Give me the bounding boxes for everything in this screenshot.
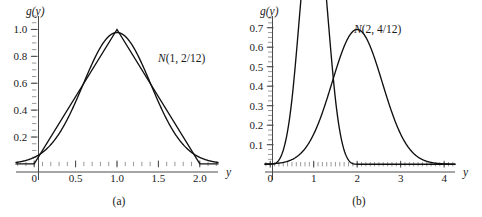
xtick-label: 3: [398, 172, 404, 184]
ytick-label: 1.0: [13, 23, 27, 35]
panel-b-curve-normal: [265, 29, 455, 164]
panel-a-ytick-labels: 0.20.40.60.81.0: [13, 23, 27, 143]
xtick-label: 0: [267, 172, 273, 184]
panel-a-annotation-normal: N(1, 2/12): [157, 52, 205, 65]
panel-a-xtick-labels: 00.51.01.52.0: [31, 172, 207, 184]
ytick-label: 0.4: [13, 104, 27, 116]
panel-b-minor-ticks: [266, 18, 453, 166]
xtick-label: 0: [31, 172, 37, 184]
panel-b-xtick-labels: 01234: [267, 172, 447, 184]
panel-b-annotation-params: (2, 4/12): [362, 23, 402, 36]
xtick-label: 2.0: [193, 172, 207, 184]
panel-b-ytick-labels: 0.10.20.30.40.50.60.7: [249, 22, 263, 151]
panel-b-annotation-normal: N(2, 4/12): [353, 23, 401, 36]
ytick-label: 0.4: [249, 80, 263, 92]
panel-b-major-ticks: [267, 28, 444, 168]
xtick-label: 1.0: [110, 172, 124, 184]
ytick-label: 0.2: [13, 131, 27, 143]
panel-a-annotation-params: (1, 2/12): [166, 52, 206, 65]
ytick-label: 0.8: [13, 50, 27, 62]
panel-a-x-axis-label: y: [225, 166, 232, 179]
ytick-label: 0.1: [249, 139, 263, 151]
xtick-label: 0.5: [69, 172, 83, 184]
panel-a-plot: 0.20.40.60.81.0 00.51.01.52.0 g(y) y N(1…: [0, 0, 241, 217]
ytick-label: 0.3: [249, 100, 263, 112]
ytick-label: 0.6: [249, 41, 263, 53]
panel-b-x-axis-label: y: [462, 166, 469, 179]
figure-root: 0.20.40.60.81.0 00.51.01.52.0 g(y) y N(1…: [0, 0, 482, 217]
ytick-label: 0.6: [13, 77, 27, 89]
chart-panel-a: 0.20.40.60.81.0 00.51.01.52.0 g(y) y N(1…: [0, 0, 241, 217]
panel-b-caption: (b): [352, 195, 366, 208]
panel-a-y-axis-label: g(y): [26, 5, 45, 18]
xtick-label: 2: [354, 172, 360, 184]
xtick-label: 1: [311, 172, 317, 184]
chart-panel-b: 0.10.20.30.40.50.60.7 01234 g(y) y N(2, …: [241, 0, 482, 217]
ytick-label: 0.7: [249, 22, 263, 34]
panel-b-y-axis-label: g(y): [260, 5, 279, 18]
panel-b-plot: 0.10.20.30.40.50.60.7 01234 g(y) y N(2, …: [241, 0, 482, 217]
ytick-label: 0.2: [249, 119, 263, 131]
panel-a-major-ticks: [31, 29, 200, 167]
ytick-label: 0.5: [249, 61, 263, 73]
panel-a-caption: (a): [113, 195, 126, 208]
xtick-label: 4: [441, 172, 447, 184]
panel-a-curve-triangular: [16, 29, 218, 163]
xtick-label: 1.5: [152, 172, 166, 184]
